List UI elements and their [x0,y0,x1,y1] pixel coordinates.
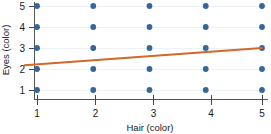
data-point [34,45,40,51]
data-point [147,3,153,9]
data-point [90,45,96,51]
y-tick-label-5: 5 [19,1,25,12]
data-point [203,24,209,30]
data-point [147,87,153,93]
data-point [34,3,40,9]
x-tick-label-3: 3 [151,108,157,119]
trend-line-layer [25,48,262,65]
data-point [203,45,209,51]
x-tick-label-4: 4 [208,108,214,119]
data-point [34,66,40,72]
y-tick-label-4: 4 [19,22,25,33]
data-point [90,66,96,72]
x-tick-label-2: 2 [93,108,99,119]
data-point [34,87,40,93]
data-point [147,24,153,30]
data-point [259,3,265,9]
data-point [90,3,96,9]
data-point [90,87,96,93]
x-axis-title: Hair (color) [127,122,174,133]
data-point [90,24,96,30]
x-tick-label-5: 5 [259,108,265,119]
data-point [203,66,209,72]
y-axis-title: Eyes (color) [0,25,11,76]
plot-canvas: 5 4 3 2 1 1 2 3 4 5 Hair (color) Eyes (c… [0,0,271,134]
x-tick-label-1: 1 [34,108,40,119]
data-point [147,45,153,51]
data-point [34,24,40,30]
data-point [203,87,209,93]
y-tick-label-3: 3 [19,43,25,54]
y-tick-label-1: 1 [19,85,25,96]
data-point [259,66,265,72]
scatter-plot-figure: 5 4 3 2 1 1 2 3 4 5 Hair (color) Eyes (c… [0,0,271,134]
data-point [259,24,265,30]
data-point [259,87,265,93]
data-point [203,3,209,9]
regression-line [25,48,262,65]
data-point [147,66,153,72]
